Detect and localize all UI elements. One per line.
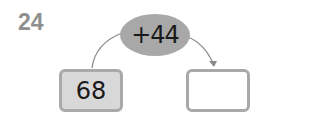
arc-line-icon xyxy=(92,33,122,68)
operation-oval: +44 xyxy=(120,14,190,56)
arrowhead-icon xyxy=(209,61,217,67)
answer-box[interactable] xyxy=(186,69,250,112)
start-value-box: 68 xyxy=(59,69,123,112)
arc-arrow-icon xyxy=(188,37,213,63)
